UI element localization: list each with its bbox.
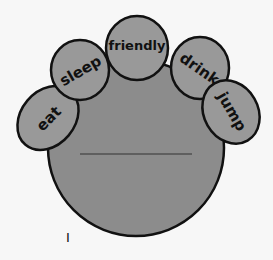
petal-label-friendly: friendly: [109, 38, 166, 53]
bottom-mark: I: [66, 230, 70, 245]
word-web-diagram: eat sleep friendly drink jump I: [0, 0, 273, 260]
petal-friendly: friendly: [106, 16, 168, 80]
petal-sleep: sleep: [51, 40, 109, 100]
